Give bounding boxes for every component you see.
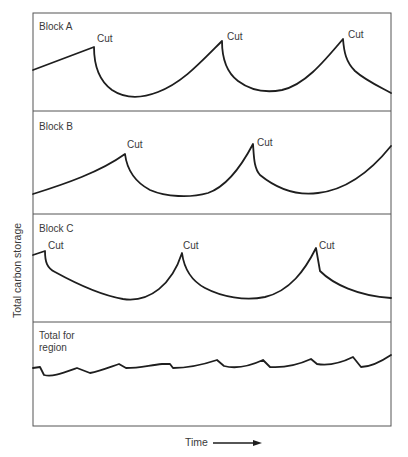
panel-title: Block B (39, 121, 73, 132)
carbon-curve (33, 39, 391, 97)
cut-label: Cut (257, 137, 273, 148)
cut-label: Cut (48, 240, 64, 251)
panel-block-b: Block B Cut Cut (33, 121, 391, 196)
panel-total-region: Total for region (33, 330, 391, 376)
panel-block-c: Block C Cut Cut Cut (33, 223, 391, 300)
panel-title: Block A (39, 21, 73, 32)
cut-label: Cut (127, 139, 143, 150)
cut-label: Cut (348, 29, 364, 40)
panel-title-line2: region (39, 342, 67, 353)
diagram-frame (33, 13, 391, 426)
y-axis-label: Total carbon storage (11, 223, 23, 318)
cut-label: Cut (97, 33, 113, 44)
carbon-curve (33, 144, 391, 196)
cut-label: Cut (227, 31, 243, 42)
cut-label: Cut (183, 240, 199, 251)
panel-title: Block C (39, 223, 73, 234)
carbon-storage-diagram: Block A Cut Cut Cut Block B Cut Cut Bloc… (0, 0, 408, 457)
panel-title-line1: Total for (39, 330, 75, 341)
panel-block-a: Block A Cut Cut Cut (33, 21, 391, 97)
carbon-curve (33, 248, 391, 300)
time-arrow-icon (213, 440, 262, 446)
carbon-curve (33, 355, 391, 376)
cut-label: Cut (319, 240, 335, 251)
x-axis-label: Time (185, 436, 208, 448)
